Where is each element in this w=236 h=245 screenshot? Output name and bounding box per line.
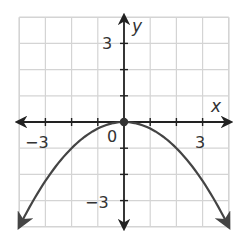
parabola-chart: y x 3 −3 −3 3 0 bbox=[0, 0, 236, 245]
x-tick-label-neg3: −3 bbox=[25, 133, 49, 152]
y-tick-label-neg3: −3 bbox=[85, 193, 109, 212]
x-tick-label-3: 3 bbox=[195, 133, 205, 152]
vertex-point bbox=[120, 118, 128, 126]
x-axis-label: x bbox=[210, 96, 222, 116]
y-axis-label: y bbox=[131, 16, 143, 36]
origin-label: 0 bbox=[107, 127, 117, 146]
y-tick-label-3: 3 bbox=[102, 34, 112, 53]
